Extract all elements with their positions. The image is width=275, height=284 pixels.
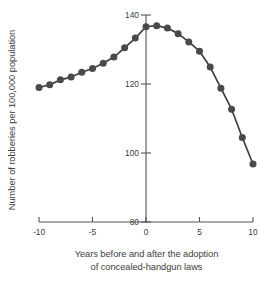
x-axis-label-line-2: of concealed-handgun laws (24, 261, 269, 274)
data-point (239, 134, 246, 141)
y-tick-label: 80 (113, 217, 139, 227)
data-point (185, 38, 192, 45)
data-point (143, 23, 150, 30)
y-tick-label: 140 (113, 10, 139, 20)
x-tick-label: 0 (144, 227, 149, 237)
x-axis-ticks (39, 217, 253, 222)
x-tick-label: -5 (89, 227, 96, 237)
data-point (78, 69, 85, 76)
data-point (68, 74, 75, 81)
x-axis-label: Years before and after the adoption of c… (24, 248, 269, 273)
y-tick-label: 120 (113, 79, 139, 89)
data-point (100, 60, 107, 67)
x-tick-label: 10 (248, 227, 257, 237)
data-point (89, 65, 96, 72)
data-point (132, 35, 139, 42)
data-point (110, 54, 117, 61)
data-point (196, 48, 203, 55)
plot-area (0, 0, 275, 284)
caption-sliver (2, 277, 273, 284)
chart-figure: Number of robberies per 100,000 populati… (0, 0, 275, 284)
x-tick-label: -10 (33, 227, 45, 237)
y-tick-label: 100 (113, 148, 139, 158)
data-point (175, 30, 182, 37)
x-tick-label: 5 (197, 227, 202, 237)
data-point (121, 44, 128, 51)
x-axis-label-line-1: Years before and after the adoption (24, 248, 269, 261)
data-point (164, 25, 171, 32)
data-point (207, 64, 214, 71)
data-point (217, 85, 224, 92)
data-point (57, 76, 64, 83)
data-point (153, 22, 160, 29)
data-point (228, 106, 235, 113)
data-point (250, 161, 257, 168)
data-point (36, 84, 43, 91)
data-point (46, 81, 53, 88)
